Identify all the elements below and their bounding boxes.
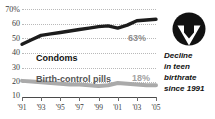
x-axis-tick bbox=[99, 97, 100, 101]
contraceptive-use-line-chart: 70% 60 50 40 30 20 10 Condoms Birth-cont… bbox=[0, 0, 160, 119]
callout-percent: 33% bbox=[170, 12, 208, 28]
x-axis-tick bbox=[22, 97, 23, 101]
y-tick-label: 60 bbox=[12, 20, 20, 28]
y-tick-label: 30 bbox=[12, 64, 20, 72]
callout-line: in teen bbox=[164, 61, 214, 72]
x-tick-label: '91 bbox=[18, 103, 27, 112]
x-axis-tick bbox=[60, 97, 61, 101]
callout-line: Decline bbox=[164, 50, 214, 61]
x-tick-label: '93 bbox=[37, 103, 46, 112]
x-axis-tick bbox=[118, 97, 119, 101]
callout-line: since 1991 bbox=[164, 83, 214, 94]
x-axis-tick bbox=[79, 97, 80, 101]
y-tick-label: 50 bbox=[12, 35, 20, 43]
series-label-birth-control-pills: Birth-control pills bbox=[36, 74, 111, 84]
y-tick-label: 40 bbox=[12, 49, 20, 57]
callout-description: Decline in teen birthrate since 1991 bbox=[164, 50, 214, 94]
x-tick-label: '99 bbox=[94, 103, 103, 112]
data-label-condoms-2005: 63% bbox=[128, 33, 146, 43]
x-axis-tick bbox=[156, 97, 157, 101]
x-axis-tick bbox=[137, 97, 138, 101]
x-axis-tick bbox=[41, 97, 42, 101]
x-tick-label: '97 bbox=[75, 103, 84, 112]
infographic-root: 70% 60 50 40 30 20 10 Condoms Birth-cont… bbox=[0, 0, 215, 119]
down-arrow-circle-icon: 33% bbox=[170, 12, 208, 48]
y-tick-label: 70% bbox=[5, 6, 20, 14]
x-tick-label: '03 bbox=[132, 103, 141, 112]
x-tick-label: '01 bbox=[113, 103, 122, 112]
y-tick-label: 10 bbox=[12, 92, 20, 100]
teen-birthrate-callout: 33% Decline in teen birthrate since 1991 bbox=[160, 0, 215, 119]
callout-line: birthrate bbox=[164, 72, 214, 83]
y-axis-labels: 70% 60 50 40 30 20 10 bbox=[0, 0, 20, 100]
y-tick-label: 20 bbox=[12, 78, 20, 86]
x-tick-label: '95 bbox=[56, 103, 65, 112]
series-label-condoms: Condoms bbox=[36, 53, 78, 63]
data-label-pills-2005: 18% bbox=[132, 73, 150, 83]
